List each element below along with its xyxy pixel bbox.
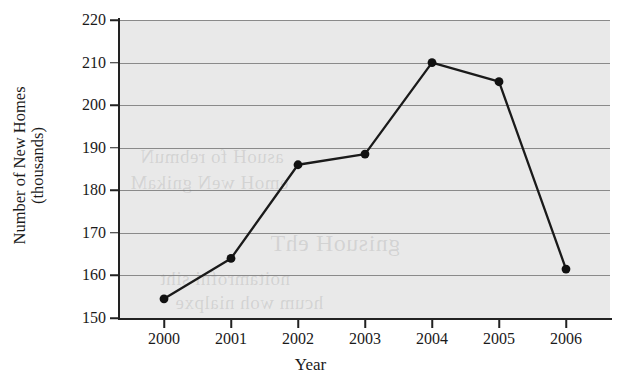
y-axis-title-line2: (thousands) xyxy=(29,86,47,244)
y-axis-tick-mark xyxy=(110,190,120,192)
x-axis-title: Year xyxy=(0,355,621,375)
x-axis-tick-label: 2001 xyxy=(215,330,247,348)
y-axis-tick-mark xyxy=(110,147,120,149)
y-axis-title-line1: Number of New Homes xyxy=(11,86,29,244)
x-axis-tick-label: 2005 xyxy=(483,330,515,348)
y-axis-tick-mark xyxy=(110,317,120,319)
data-series-line xyxy=(120,20,610,318)
x-axis-tick-label: 2006 xyxy=(550,330,582,348)
y-axis-tick-label: 170 xyxy=(55,224,113,242)
x-axis-tick-mark xyxy=(230,320,232,328)
x-axis-tick-mark xyxy=(297,320,299,328)
x-axis-tick-label: 2000 xyxy=(148,330,180,348)
data-point-marker xyxy=(495,77,504,86)
x-axis-tick-mark xyxy=(364,320,366,328)
y-axis-tick-label: 220 xyxy=(55,11,113,29)
y-axis-tick-label: 180 xyxy=(55,181,113,199)
x-axis-tick-label: 2004 xyxy=(416,330,448,348)
y-axis-tick-label: 160 xyxy=(55,266,113,284)
data-point-marker xyxy=(361,150,370,159)
y-axis-tick-mark xyxy=(110,104,120,106)
data-point-marker xyxy=(428,58,437,67)
y-axis-tick-label: 210 xyxy=(55,54,113,72)
x-axis-tick-label: 2003 xyxy=(349,330,381,348)
y-axis-tick-label: 190 xyxy=(55,139,113,157)
x-axis-tick-mark xyxy=(565,320,567,328)
data-point-marker xyxy=(227,254,236,263)
y-axis-tick-mark xyxy=(110,232,120,234)
y-axis-tick-mark xyxy=(110,19,120,21)
plot-area: asuoH fo rebmuN emoH weN gnikaM gnisuoH … xyxy=(120,20,610,318)
y-axis-tick-mark xyxy=(110,275,120,277)
x-axis-tick-mark xyxy=(498,320,500,328)
y-axis-title: Number of New Homes (thousands) xyxy=(0,0,58,330)
x-axis-tick-label: 2002 xyxy=(282,330,314,348)
y-axis-tick-label: 150 xyxy=(55,309,113,327)
y-axis-tick-mark xyxy=(110,62,120,64)
data-point-marker xyxy=(294,160,303,169)
data-point-marker xyxy=(562,265,571,274)
x-axis-tick-mark xyxy=(431,320,433,328)
series-polyline xyxy=(164,63,566,299)
y-axis-tick-labels: 150160170180190200210220 xyxy=(55,0,113,383)
y-axis-tick-label: 200 xyxy=(55,96,113,114)
x-axis-tick-mark xyxy=(163,320,165,328)
chart-figure: Number of New Homes (thousands) 15016017… xyxy=(0,0,621,383)
data-point-marker xyxy=(160,294,169,303)
